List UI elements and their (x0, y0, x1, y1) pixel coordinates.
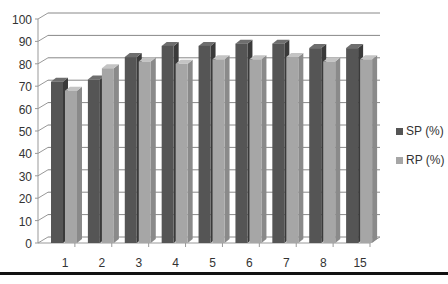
legend-item-sp: SP (%) (396, 124, 444, 138)
y-tick-label: 40 (19, 147, 33, 161)
x-tick-label: 3 (135, 256, 142, 270)
bar-sp (125, 57, 137, 243)
bar-rp (102, 68, 114, 243)
y-tick-label: 90 (19, 35, 33, 49)
legend-label-rp: RP (%) (406, 153, 444, 167)
y-tick-label: 70 (19, 80, 33, 94)
bar-sp (162, 46, 174, 243)
x-tick-label: 7 (283, 256, 290, 270)
y-tick-label: 80 (19, 58, 33, 72)
bar-rp (176, 64, 188, 243)
legend-item-rp: RP (%) (396, 153, 444, 167)
y-tick-label: 50 (19, 125, 33, 139)
y-tick-label: 30 (19, 170, 33, 184)
x-tick-label: 1 (62, 256, 69, 270)
x-tick-label: 8 (320, 256, 327, 270)
x-tick-label: 5 (209, 256, 216, 270)
x-tick-label: 4 (172, 256, 179, 270)
legend-swatch-rp (396, 157, 403, 164)
bottom-rule (0, 272, 448, 275)
bar-rp (360, 59, 372, 243)
bar-rp (65, 91, 77, 243)
x-tick-label: 2 (99, 256, 106, 270)
bar-sp (346, 48, 358, 243)
bar-rp (323, 62, 335, 243)
x-tick-label: 15 (353, 256, 367, 270)
legend: SP (%) RP (%) (396, 124, 444, 182)
bar-chart: 01020304050607080901001234567815 (0, 0, 448, 284)
legend-label-sp: SP (%) (406, 124, 444, 138)
bar-rp (139, 62, 151, 243)
bar-sp (199, 46, 211, 243)
bar-sp (309, 48, 321, 243)
y-tick-label: 100 (12, 13, 32, 27)
y-tick-label: 20 (19, 192, 33, 206)
bar-rp (213, 59, 225, 243)
legend-swatch-sp (396, 128, 403, 135)
y-tick-label: 60 (19, 103, 33, 117)
bar-sp (235, 44, 247, 243)
y-tick-label: 0 (25, 237, 32, 251)
bar-sp (51, 82, 63, 243)
bar-rp (286, 57, 298, 243)
y-tick-label: 10 (19, 215, 33, 229)
bar-rp (249, 59, 261, 243)
bar-sp (88, 79, 100, 243)
bar-sp (272, 44, 284, 243)
x-tick-label: 6 (246, 256, 253, 270)
